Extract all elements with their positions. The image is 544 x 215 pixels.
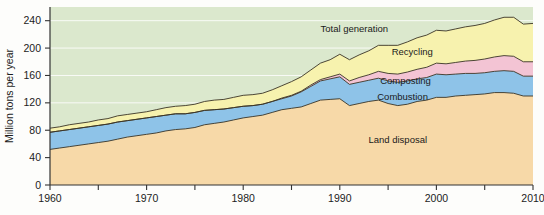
- x-tick-label: 1980: [232, 192, 256, 204]
- x-tick-label: 2010: [521, 192, 544, 204]
- x-tick-label: 2000: [425, 192, 449, 204]
- y-tick-label: 160: [23, 69, 41, 81]
- y-axis-title: Million tons per year: [3, 49, 15, 143]
- x-tick-label: 1960: [38, 192, 62, 204]
- y-axis-title-text: Million tons per year: [3, 49, 15, 143]
- chart-container: 04080120160200240 1960197019801990200020…: [0, 0, 544, 215]
- y-tick-label: 240: [23, 14, 41, 26]
- annotation-combustion: Combustion: [377, 91, 428, 102]
- y-tick-label: 120: [23, 96, 41, 108]
- x-tick-label: 1990: [328, 192, 352, 204]
- y-tick-label: 0: [35, 179, 41, 191]
- x-tick-label: 1970: [135, 192, 159, 204]
- annotation-composting: Composting: [380, 75, 431, 86]
- y-tick-label: 200: [23, 42, 41, 54]
- stacked-area-chart: 04080120160200240 1960197019801990200020…: [0, 0, 544, 215]
- annotation-total-generation: Total generation: [320, 23, 388, 34]
- annotation-land-disposal: Land disposal: [368, 134, 427, 145]
- y-tick-label: 40: [29, 151, 41, 163]
- annotation-recycling: Recycling: [392, 46, 433, 57]
- y-tick-label: 80: [29, 124, 41, 136]
